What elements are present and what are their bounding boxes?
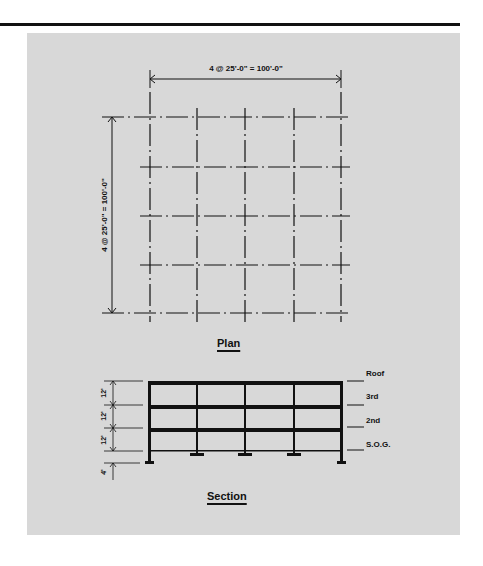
plan-title: Plan — [217, 337, 240, 349]
story-height-3: 12' — [100, 388, 107, 397]
level-label-2nd: 2nd — [366, 416, 380, 425]
section-level-leaders — [347, 381, 364, 450]
foundation-depth: 4' — [100, 469, 107, 475]
plan-horizontal-dimension-label: 4 @ 25'-0" = 100'-0" — [150, 64, 342, 73]
section-frame — [145, 381, 346, 464]
plan-dimension-left — [108, 117, 116, 313]
diagram-drawing — [0, 0, 483, 566]
section-dimensions — [104, 381, 143, 480]
plan-vertical-dimension-label: 4 @ 25'-0" = 100'-0" — [100, 178, 109, 252]
story-height-1: 12' — [100, 435, 107, 444]
level-label-3rd: 3rd — [366, 392, 378, 401]
section-title: Section — [207, 490, 247, 502]
plan-grid — [102, 92, 350, 322]
level-label-roof: Roof — [366, 369, 384, 378]
story-height-2: 12' — [100, 411, 107, 420]
level-label-sog: S.O.G. — [366, 440, 390, 449]
